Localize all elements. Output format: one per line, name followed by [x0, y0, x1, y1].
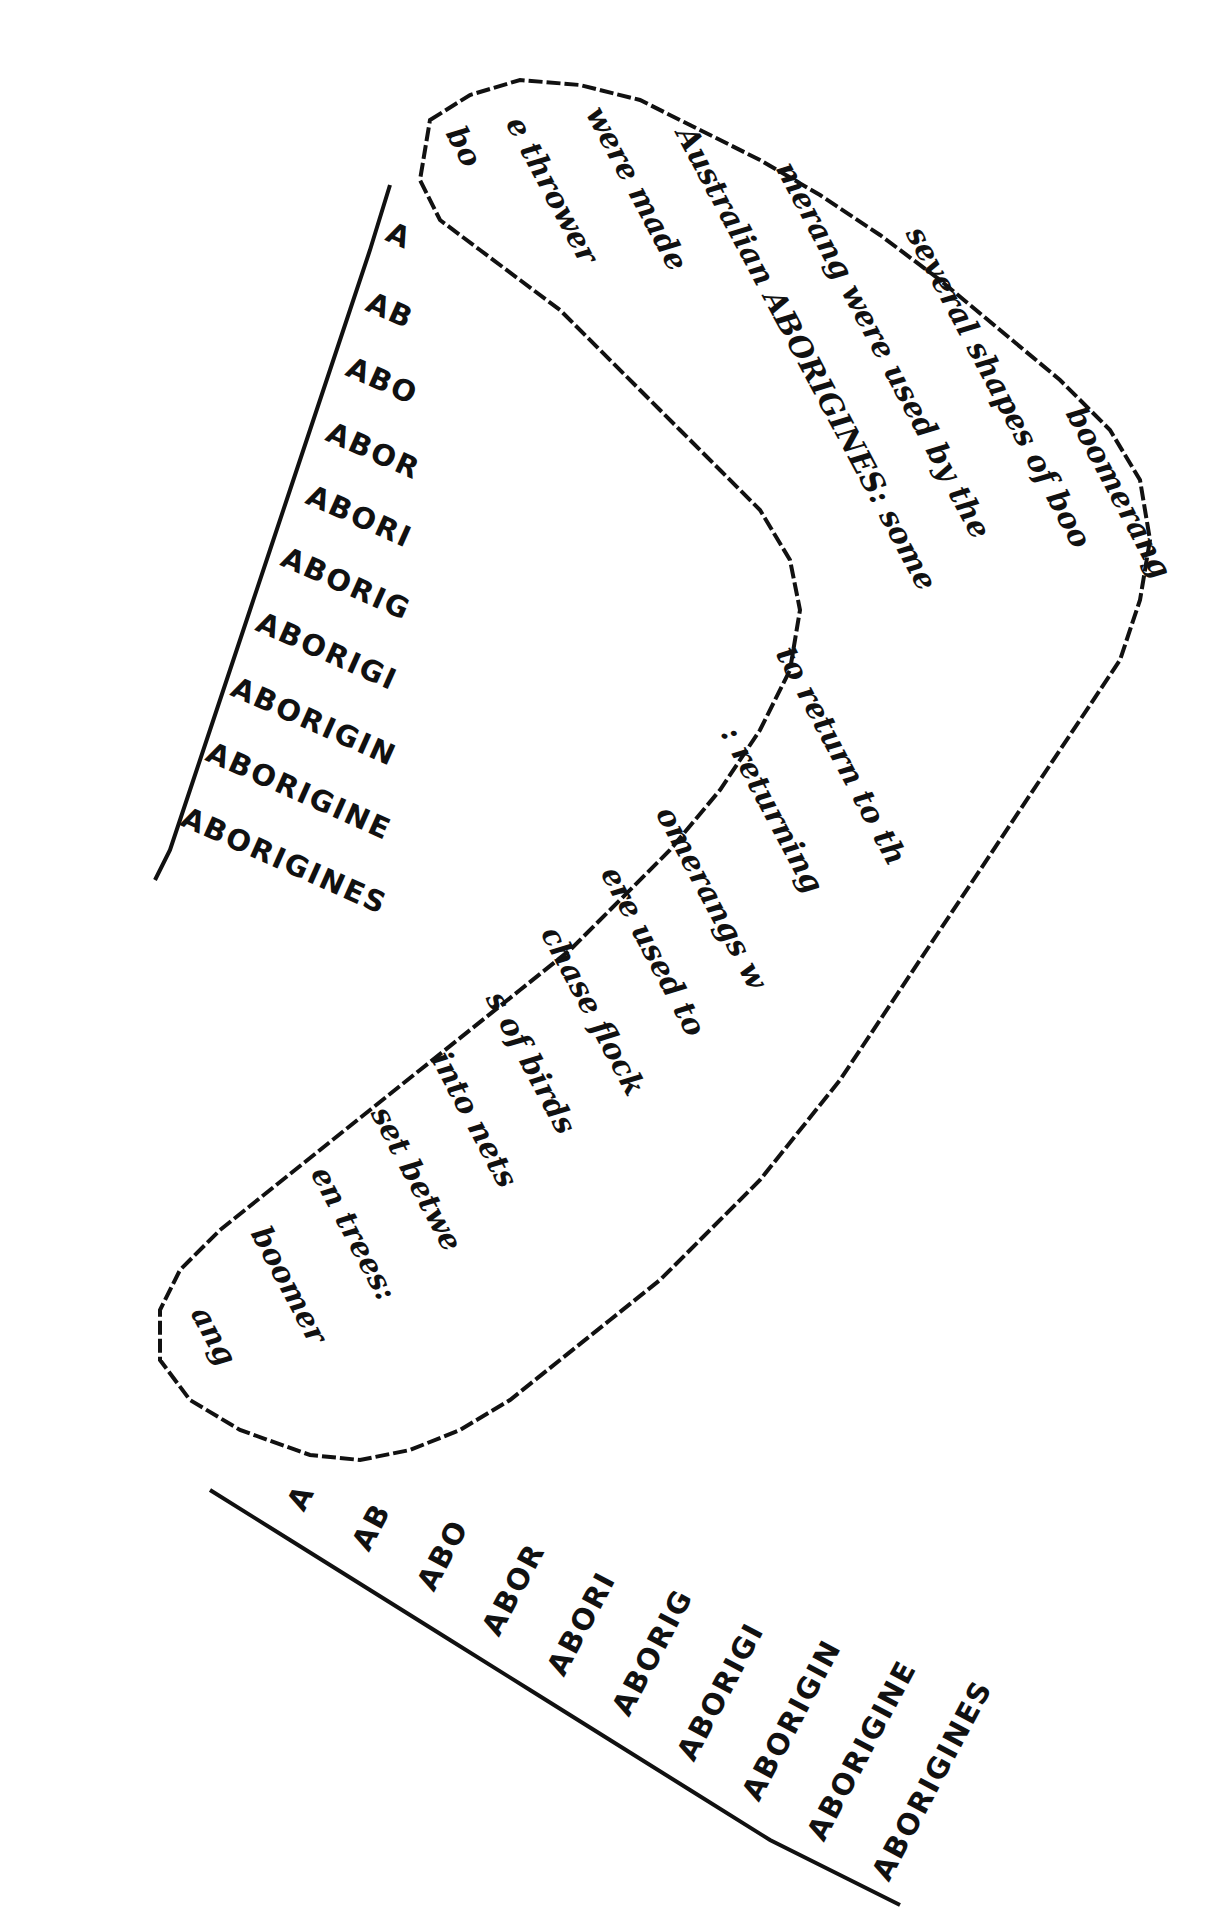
- calligram-canvas: A AB ABO ABOR ABORI ABORIG ABORIGI ABORI…: [0, 0, 1221, 1914]
- boomerang-outline-icon: [0, 0, 1221, 1914]
